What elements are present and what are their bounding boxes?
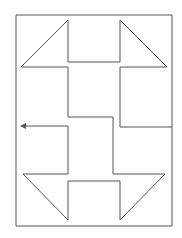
maze-diagram: [0, 0, 182, 238]
diagram-canvas: [0, 0, 182, 238]
top-arrow-shape: [21, 20, 172, 127]
outer-frame: [16, 15, 172, 226]
middle-step: [23, 117, 165, 220]
